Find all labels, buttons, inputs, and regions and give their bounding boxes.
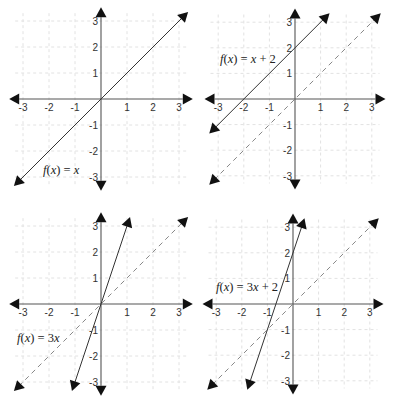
y-tick-label: -1 <box>283 120 292 131</box>
x-tick-label: 1 <box>124 307 130 318</box>
y-tick-label: -3 <box>89 172 98 183</box>
function-label: f(x) = x <box>43 163 80 177</box>
graph-panel-bottom-right: -3-3-2-2-1-1112233f(x) = 3x + 2 <box>203 214 384 395</box>
graph-panel-bottom-left: -3-3-2-2-1-1112233f(x) = 3x <box>9 212 193 396</box>
x-tick-label: -1 <box>71 102 80 113</box>
y-tick-label: -1 <box>89 120 98 131</box>
x-tick-label: 3 <box>367 307 373 318</box>
x-tick-label: 2 <box>150 102 156 113</box>
x-tick-label: -3 <box>214 102 223 113</box>
arrowhead-icon <box>183 94 193 105</box>
x-tick-label: -2 <box>239 102 248 113</box>
x-tick-label: -1 <box>263 307 272 318</box>
x-tick-label: -3 <box>19 102 28 113</box>
x-tick-label: 2 <box>341 307 347 318</box>
y-tick-label: -3 <box>283 171 292 182</box>
x-tick-label: -1 <box>265 102 274 113</box>
y-tick-label: -2 <box>89 351 98 362</box>
y-tick-label: -1 <box>281 325 290 336</box>
x-tick-label: 3 <box>176 102 182 113</box>
y-tick-label: 3 <box>286 17 292 28</box>
function-graphs-figure: -3-3-2-2-1-1112233f(x) = x-3-3-2-2-1-111… <box>0 0 398 409</box>
arrowhead-icon <box>373 299 383 310</box>
graph-panel-top-right: -3-3-2-2-1-1112233f(x) = x + 2 <box>205 9 386 190</box>
x-tick-label: -2 <box>45 102 54 113</box>
y-tick-label: 3 <box>92 16 98 27</box>
function-label: f(x) = 3x + 2 <box>216 280 278 294</box>
y-tick-label: 3 <box>92 221 98 232</box>
y-tick-label: -2 <box>89 146 98 157</box>
y-tick-label: 2 <box>92 42 98 53</box>
x-tick-label: 2 <box>343 102 349 113</box>
x-tick-label: -3 <box>19 307 28 318</box>
x-tick-label: 1 <box>316 307 322 318</box>
x-tick-label: 2 <box>150 307 156 318</box>
x-tick-label: 3 <box>369 102 375 113</box>
x-tick-label: -1 <box>71 307 80 318</box>
y-tick-label: -2 <box>281 350 290 361</box>
y-tick-label: 1 <box>92 273 98 284</box>
y-tick-label: 1 <box>286 68 292 79</box>
x-tick-label: -3 <box>212 307 221 318</box>
y-tick-label: -3 <box>89 377 98 388</box>
graph-panel-top-left: -3-3-2-2-1-1112233f(x) = x <box>9 7 193 191</box>
y-tick-label: -3 <box>281 376 290 387</box>
y-tick-label: 2 <box>92 247 98 258</box>
function-label: f(x) = 3x <box>17 331 60 345</box>
y-tick-label: 1 <box>92 68 98 79</box>
x-tick-label: 1 <box>124 102 130 113</box>
x-tick-label: -2 <box>45 307 54 318</box>
y-tick-label: 2 <box>284 248 290 259</box>
arrowhead-icon <box>375 94 385 105</box>
arrowhead-icon <box>183 299 193 310</box>
x-tick-label: 3 <box>176 307 182 318</box>
y-tick-label: -2 <box>283 145 292 156</box>
y-tick-label: 3 <box>284 222 290 233</box>
x-tick-label: 1 <box>318 102 324 113</box>
function-label: f(x) = x + 2 <box>220 52 276 66</box>
y-tick-label: 2 <box>286 43 292 54</box>
x-tick-label: -2 <box>237 307 246 318</box>
